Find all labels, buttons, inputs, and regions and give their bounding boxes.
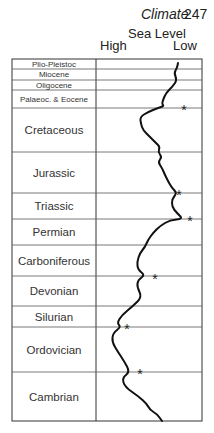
period-label: Devonian <box>12 276 96 306</box>
asterisk-marker: * <box>181 102 187 118</box>
period-label: Silurian <box>12 306 96 327</box>
period-label: Triassic <box>12 193 96 219</box>
period-label: Jurassic <box>12 152 96 193</box>
asterisk-marker: * <box>176 187 182 203</box>
period-label: Plio-Pleistoc <box>12 59 96 69</box>
period-label: Cambrian <box>12 372 96 421</box>
period-label: Carboniferous <box>12 245 96 276</box>
asterisk-marker: * <box>187 213 193 229</box>
asterisk-marker: * <box>137 366 143 382</box>
period-label: Permian <box>12 219 96 245</box>
period-label: Oligocene <box>12 80 96 90</box>
period-label: Palaeoc. & Eocene <box>12 90 96 108</box>
period-label: Miocene <box>12 69 96 80</box>
period-label: Cretaceous <box>12 108 96 152</box>
asterisk-marker: * <box>124 321 130 337</box>
asterisk-marker: * <box>152 271 158 287</box>
period-label: Ordovician <box>12 327 96 372</box>
sea-level-curve <box>112 63 181 421</box>
